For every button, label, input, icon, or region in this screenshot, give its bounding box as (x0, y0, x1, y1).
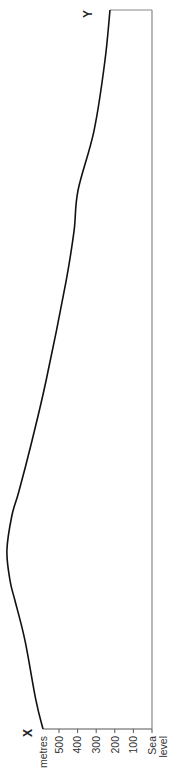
tick-label-100: 100 (127, 736, 139, 754)
cross-section-chart: 500400300200100 X Y metres Sea level (0, 0, 182, 784)
profile-line (7, 10, 110, 729)
sea-label: Sea (146, 736, 158, 755)
tick-label-500: 500 (53, 736, 65, 754)
tick-label-200: 200 (109, 736, 121, 754)
level-label: level (157, 736, 169, 758)
tick-label-400: 400 (71, 736, 83, 754)
end-label-y: Y (81, 10, 95, 18)
axis-unit-label: metres (37, 736, 49, 768)
start-label-x: X (21, 729, 35, 737)
tick-label-300: 300 (90, 736, 102, 754)
axis-ticks: 500400300200100 (53, 729, 152, 754)
